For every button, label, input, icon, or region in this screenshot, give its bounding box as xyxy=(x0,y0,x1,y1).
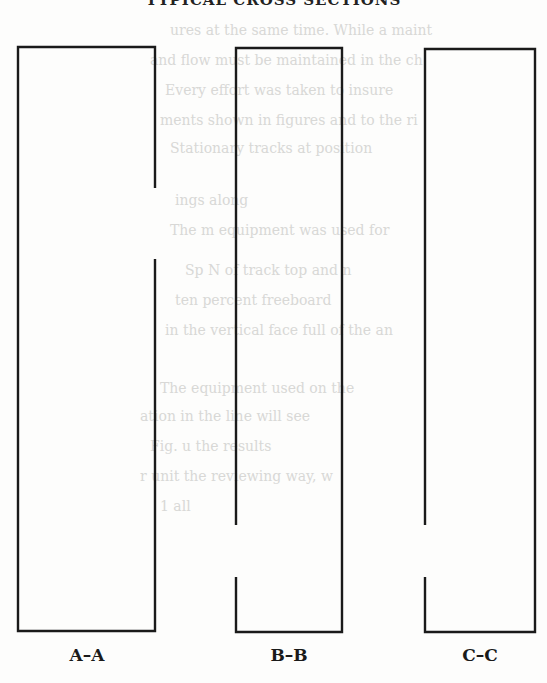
section-outline-c-c xyxy=(425,49,535,632)
sections-group xyxy=(18,47,535,632)
section-outline-b-b xyxy=(236,48,342,632)
section-label-c-c: C–C xyxy=(440,645,520,665)
cross-section-diagram xyxy=(0,0,547,683)
section-label-b-b: B–B xyxy=(249,645,329,665)
section-label-a-a: A–A xyxy=(47,645,127,665)
section-outline-a-a xyxy=(18,47,155,631)
